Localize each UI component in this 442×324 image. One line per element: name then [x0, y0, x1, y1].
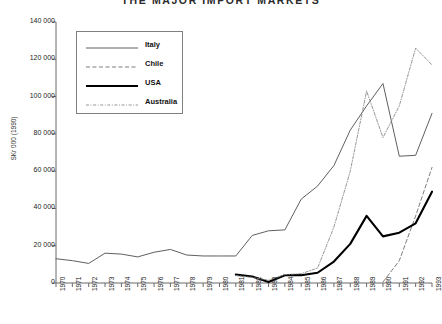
- x-tick-label: 1972: [91, 277, 98, 291]
- x-tick-label: 1990: [385, 277, 392, 291]
- legend-item-usa[interactable]: USA: [77, 76, 184, 94]
- x-tick-label: 1985: [304, 277, 311, 291]
- x-tick-label: 1983: [271, 277, 278, 291]
- x-tick-label: 1989: [369, 277, 376, 291]
- legend-label: Italy: [145, 40, 160, 49]
- x-tick-label: 1987: [336, 277, 343, 291]
- x-tick-label: 1988: [353, 277, 360, 291]
- x-axis-tick-labels: 1970197119721973197419751976197719781979…: [0, 0, 442, 324]
- legend-item-italy[interactable]: Italy: [77, 38, 184, 56]
- x-tick-label: 1993: [435, 277, 442, 291]
- x-tick-label: 1971: [75, 277, 82, 291]
- x-tick-label: 1981: [238, 277, 245, 291]
- x-tick-label: 1975: [140, 277, 147, 291]
- x-tick-label: 1974: [124, 277, 131, 291]
- chart-legend: ItalyChileUSAAustralia: [76, 31, 183, 114]
- x-tick-label: 1980: [222, 277, 229, 291]
- x-tick-label: 1986: [320, 277, 327, 291]
- x-tick-label: 1973: [108, 277, 115, 291]
- legend-label: Australia: [145, 97, 177, 106]
- x-tick-label: 1976: [157, 277, 164, 291]
- x-tick-label: 1978: [189, 277, 196, 291]
- x-tick-label: 1977: [173, 277, 180, 291]
- x-tick-label: 1991: [402, 277, 409, 291]
- x-tick-label: 1982: [255, 277, 262, 291]
- x-tick-label: 1979: [206, 277, 213, 291]
- legend-label: Chile: [145, 59, 163, 68]
- x-tick-label: 1984: [287, 277, 294, 291]
- legend-label: USA: [145, 78, 161, 87]
- legend-item-chile[interactable]: Chile: [77, 57, 184, 75]
- x-tick-label: 1992: [418, 277, 425, 291]
- line-chart: THE MAJOR IMPORT MARKETS SKr 000 (1990) …: [0, 0, 442, 324]
- legend-item-australia[interactable]: Australia: [77, 95, 184, 113]
- x-tick-label: 1970: [59, 277, 66, 291]
